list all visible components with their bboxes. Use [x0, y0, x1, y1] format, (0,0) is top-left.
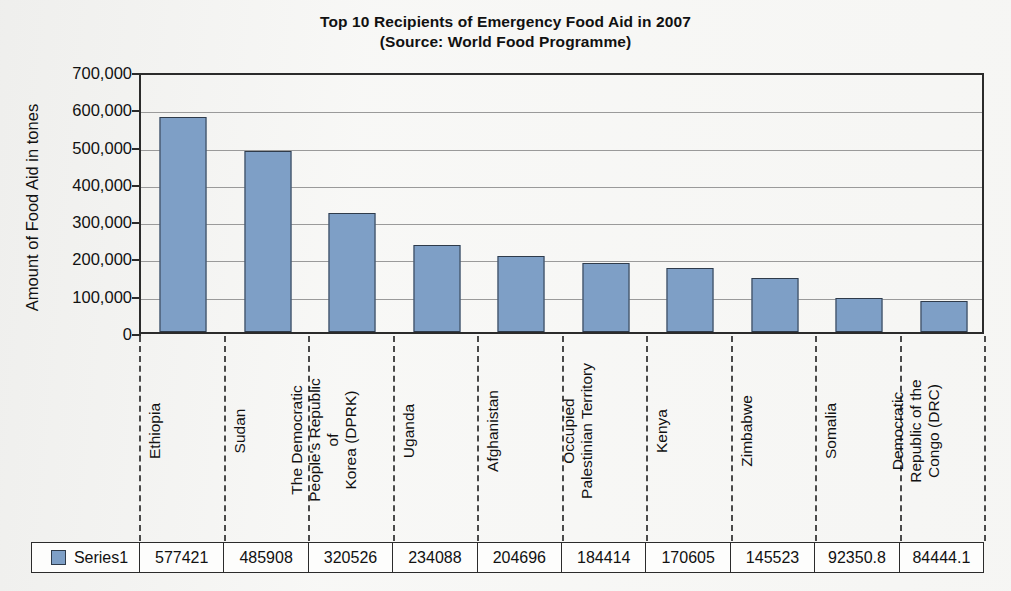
legend-cell: Series1 — [32, 543, 140, 572]
bar-slot — [817, 75, 902, 332]
y-tick-label: 500,000 — [36, 138, 132, 158]
category-label-text: Zimbabwe — [737, 362, 755, 499]
category-label-text: The Democratic People's Republic of Kore… — [288, 371, 360, 508]
bar-slot — [141, 75, 226, 332]
bar[interactable] — [498, 256, 545, 332]
category-label-text: Occupied Palestinian Territory — [559, 362, 595, 499]
y-tick-label: 400,000 — [36, 175, 132, 195]
table-cell-value: 320526 — [309, 543, 393, 572]
bar[interactable] — [244, 151, 291, 332]
bar[interactable] — [667, 268, 714, 332]
category-label: The Democratic People's Republic of Kore… — [308, 336, 393, 532]
bar-series — [141, 75, 982, 332]
category-label-text: Sudan — [230, 362, 248, 499]
bar-slot — [733, 75, 818, 332]
bar[interactable] — [751, 278, 798, 332]
y-tick-label: 100,000 — [36, 287, 132, 307]
y-tick-label: 700,000 — [36, 63, 132, 83]
table-cell-value: 234088 — [393, 543, 477, 572]
legend-swatch-icon — [51, 550, 66, 565]
y-tick-label: 300,000 — [36, 212, 132, 232]
bar[interactable] — [920, 301, 967, 332]
chart-title-line1: Top 10 Recipients of Emergency Food Aid … — [320, 13, 691, 30]
chart-page: Top 10 Recipients of Emergency Food Aid … — [0, 0, 1011, 591]
legend-series-label: Series1 — [74, 549, 128, 567]
data-table: Series1 57742148590832052623408820469618… — [31, 542, 984, 573]
category-label-text: Somalia — [822, 362, 840, 499]
bar-slot — [648, 75, 733, 332]
y-tick-label: 600,000 — [36, 100, 132, 120]
table-cell-value: 485908 — [224, 543, 308, 572]
category-label: Democratic Republic of the Congo (DRC) — [900, 336, 985, 532]
category-label-text: Afghanistan — [484, 362, 502, 499]
bar-slot — [395, 75, 480, 332]
chart-title: Top 10 Recipients of Emergency Food Aid … — [0, 12, 1011, 52]
category-label-text: Kenya — [653, 362, 671, 499]
bar[interactable] — [582, 263, 629, 332]
category-label: Occupied Palestinian Territory — [562, 336, 647, 532]
table-cell-value: 577421 — [140, 543, 224, 572]
bar-slot — [564, 75, 649, 332]
bar-slot — [902, 75, 987, 332]
table-cell-value: 204696 — [478, 543, 562, 572]
table-cell-value: 184414 — [562, 543, 646, 572]
category-axis-labels: EthiopiaSudanThe Democratic People's Rep… — [139, 336, 984, 541]
table-cell-value: 145523 — [731, 543, 815, 572]
category-label-text: Uganda — [399, 362, 417, 499]
chart-title-line2: (Source: World Food Programme) — [0, 32, 1011, 52]
y-axis-tick-labels: 700,000600,000500,000400,000300,000200,0… — [36, 63, 132, 343]
category-label: Uganda — [393, 336, 478, 532]
bar-slot — [226, 75, 311, 332]
plot-area — [139, 73, 984, 334]
category-label: Zimbabwe — [731, 336, 816, 532]
table-cell-value: 170605 — [646, 543, 730, 572]
bar[interactable] — [413, 245, 460, 332]
category-label-text: Ethiopia — [146, 362, 164, 499]
bar[interactable] — [836, 298, 883, 332]
table-cell-value: 92350.8 — [815, 543, 899, 572]
category-label-text: Democratic Republic of the Congo (DRC) — [888, 362, 942, 499]
category-label: Somalia — [815, 336, 900, 532]
bar[interactable] — [160, 117, 207, 332]
bar-slot — [310, 75, 395, 332]
category-label: Afghanistan — [477, 336, 562, 532]
bar[interactable] — [329, 213, 376, 333]
y-tick-label: 200,000 — [36, 249, 132, 269]
category-label: Ethiopia — [139, 336, 224, 532]
y-tick-label: 0 — [36, 324, 132, 344]
category-label: Kenya — [646, 336, 731, 532]
category-separator — [984, 336, 986, 541]
table-cell-value: 84444.1 — [900, 543, 983, 572]
bar-slot — [479, 75, 564, 332]
